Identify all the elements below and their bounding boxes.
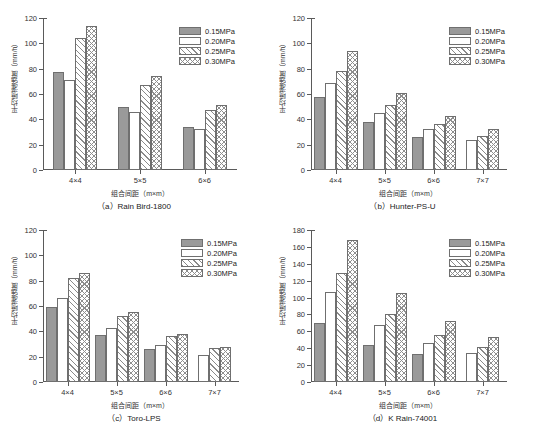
y-tick-d-140	[307, 264, 311, 265]
x-tick-label-b-2: 5×5	[378, 176, 391, 185]
legend-item-a-0.20MPa[interactable]: 0.20MPa	[179, 36, 235, 46]
y-tick-label-b-40: 40	[297, 115, 305, 124]
bar-c-4x4-0.15MPa	[46, 307, 57, 382]
bar-a-5x5-0.30MPa	[151, 76, 162, 170]
bar-a-4x4-0.20MPa	[64, 80, 75, 170]
bar-b-6x6-0.20MPa	[423, 129, 434, 170]
x-axis-label-c: 组合间距（m×m）	[43, 400, 237, 410]
bar-d-6x6-0.20MPa	[423, 343, 434, 382]
y-axis-line-c	[43, 230, 44, 382]
bar-b-7x7-0.20MPa	[466, 140, 477, 170]
bar-group-b-2	[363, 18, 407, 170]
y-tick-label-b-80: 80	[297, 64, 305, 73]
bar-b-5x5-0.25MPa	[385, 105, 396, 170]
y-tick-label-a-20: 20	[29, 140, 37, 149]
legend-item-d-0.20MPa[interactable]: 0.20MPa	[449, 248, 505, 258]
y-tick-d-40	[307, 348, 311, 349]
bar-a-6x6-0.20MPa	[194, 129, 205, 170]
y-tick-d-0	[307, 382, 311, 383]
x-tick-label-c-1: 4×4	[61, 388, 74, 397]
bar-a-4x4-0.15MPa	[53, 72, 64, 170]
legend-b: 0.15MPa0.20MPa0.25MPa0.30MPa	[449, 26, 505, 66]
legend-item-b-0.25MPa[interactable]: 0.25MPa	[449, 46, 505, 56]
y-tick-d-160	[307, 247, 311, 248]
legend-label-0.20MPa: 0.20MPa	[205, 37, 235, 46]
legend-item-b-0.20MPa[interactable]: 0.20MPa	[449, 36, 505, 46]
bar-c-7x7-0.25MPa	[209, 348, 220, 382]
legend-item-c-0.25MPa[interactable]: 0.25MPa	[181, 258, 237, 268]
y-tick-label-c-120: 120	[24, 226, 37, 235]
legend-label-0.25MPa: 0.25MPa	[207, 259, 237, 268]
legend-swatch-0.25MPa	[449, 47, 471, 56]
y-tick-c-60	[39, 306, 43, 307]
bar-c-4x4-0.20MPa	[57, 298, 68, 382]
bar-c-7x7-0.30MPa	[220, 347, 231, 382]
bar-c-6x6-0.25MPa	[166, 336, 177, 382]
legend-item-c-0.20MPa[interactable]: 0.20MPa	[181, 248, 237, 258]
bar-group-b-1	[314, 18, 358, 170]
y-tick-d-20	[307, 365, 311, 366]
legend-item-d-0.15MPa[interactable]: 0.15MPa	[449, 238, 505, 248]
bar-b-4x4-0.30MPa	[347, 51, 358, 170]
x-tick-a-2	[140, 170, 141, 174]
y-tick-label-c-80: 80	[29, 276, 37, 285]
y-tick-label-d-80: 80	[297, 310, 305, 319]
legend-item-c-0.15MPa[interactable]: 0.15MPa	[181, 238, 237, 248]
y-tick-label-b-20: 20	[297, 140, 305, 149]
bar-b-7x7-0.25MPa	[477, 136, 488, 170]
y-tick-a-80	[39, 69, 43, 70]
y-tick-label-d-140: 140	[292, 259, 305, 268]
legend-item-d-0.30MPa[interactable]: 0.30MPa	[449, 268, 505, 278]
x-tick-d-3	[434, 382, 435, 386]
x-tick-label-c-3: 6×6	[159, 388, 172, 397]
y-tick-label-b-100: 100	[292, 39, 305, 48]
y-tick-d-80	[307, 314, 311, 315]
y-tick-b-120	[307, 18, 311, 19]
y-tick-c-20	[39, 357, 43, 358]
bar-d-5x5-0.15MPa	[363, 345, 374, 382]
legend-label-0.15MPa: 0.15MPa	[205, 27, 235, 36]
bar-c-7x7-0.20MPa	[198, 355, 209, 382]
legend-swatch-0.25MPa	[449, 259, 471, 268]
panel-a: 平均喷灌强度（mm/h） 0204060801001204×45×56×60.1…	[0, 0, 268, 212]
legend-label-0.20MPa: 0.20MPa	[475, 37, 505, 46]
legend-label-0.15MPa: 0.15MPa	[207, 239, 237, 248]
y-tick-label-d-100: 100	[292, 293, 305, 302]
x-tick-label-c-2: 5×5	[110, 388, 123, 397]
x-tick-d-4	[483, 382, 484, 386]
bar-b-5x5-0.15MPa	[363, 122, 374, 170]
legend-swatch-0.30MPa	[449, 269, 471, 278]
y-axis-label-d: 平均喷灌强度（mm/h）	[276, 212, 290, 364]
legend-item-b-0.15MPa[interactable]: 0.15MPa	[449, 26, 505, 36]
x-tick-label-b-1: 4×4	[329, 176, 342, 185]
bar-b-7x7-0.30MPa	[488, 129, 499, 170]
bar-b-4x4-0.20MPa	[325, 83, 336, 170]
legend-swatch-0.15MPa	[449, 239, 471, 248]
bar-a-5x5-0.15MPa	[118, 107, 129, 170]
bar-c-4x4-0.30MPa	[79, 273, 90, 382]
bar-d-5x5-0.25MPa	[385, 314, 396, 382]
bar-b-6x6-0.30MPa	[445, 116, 456, 170]
y-axis-label-b: 平均喷灌强度（mm/h）	[276, 0, 290, 152]
bar-d-4x4-0.15MPa	[314, 323, 325, 382]
bar-d-7x7-0.20MPa	[466, 353, 477, 382]
bar-a-6x6-0.25MPa	[205, 110, 216, 170]
x-tick-d-2	[385, 382, 386, 386]
bar-a-6x6-0.30MPa	[216, 105, 227, 170]
bar-b-4x4-0.15MPa	[314, 97, 325, 170]
bar-d-4x4-0.30MPa	[347, 240, 358, 382]
legend-item-c-0.30MPa[interactable]: 0.30MPa	[181, 268, 237, 278]
y-tick-label-d-20: 20	[297, 361, 305, 370]
bar-c-6x6-0.15MPa	[144, 349, 155, 382]
legend-item-a-0.30MPa[interactable]: 0.30MPa	[179, 56, 235, 66]
y-tick-label-c-40: 40	[29, 327, 37, 336]
legend-item-a-0.25MPa[interactable]: 0.25MPa	[179, 46, 235, 56]
x-tick-label-a-1: 4×4	[69, 176, 82, 185]
legend-item-b-0.30MPa[interactable]: 0.30MPa	[449, 56, 505, 66]
legend-item-a-0.15MPa[interactable]: 0.15MPa	[179, 26, 235, 36]
x-tick-label-d-3: 6×6	[427, 388, 440, 397]
legend-item-d-0.25MPa[interactable]: 0.25MPa	[449, 258, 505, 268]
y-tick-d-120	[307, 281, 311, 282]
legend-c: 0.15MPa0.20MPa0.25MPa0.30MPa	[181, 238, 237, 278]
legend-label-0.20MPa: 0.20MPa	[207, 249, 237, 258]
